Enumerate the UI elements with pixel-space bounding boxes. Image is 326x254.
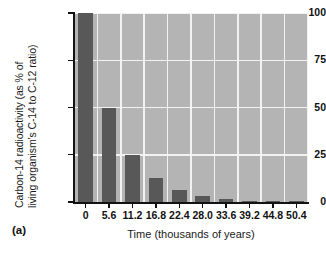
- bar: [78, 13, 93, 202]
- gridline-vertical: [260, 13, 262, 202]
- x-tick-mark: [225, 203, 226, 208]
- gridline-vertical: [97, 13, 99, 202]
- gridline-vertical: [214, 13, 216, 202]
- gridline-vertical: [237, 13, 239, 202]
- bar: [149, 178, 164, 202]
- y-axis-title-line-2: living organism's C-14 to C-12 ratio): [26, 10, 38, 208]
- x-tick-mark: [155, 203, 156, 208]
- bar: [102, 108, 117, 203]
- x-tick-mark: [179, 203, 180, 208]
- x-tick-mark: [108, 203, 109, 208]
- y-axis-line: [73, 12, 75, 203]
- figure-caption: (a): [12, 224, 26, 236]
- gridline-vertical: [284, 13, 286, 202]
- x-tick-mark: [85, 203, 86, 208]
- figure-container: Carbon-14 radioactivity (as % of living …: [0, 0, 326, 254]
- plot-area: [74, 13, 308, 202]
- x-tick-mark: [296, 203, 297, 208]
- x-axis-title: Time (thousands of years): [74, 228, 308, 240]
- gridline-vertical: [120, 13, 122, 202]
- gridline-vertical: [190, 13, 192, 202]
- bar: [172, 190, 187, 202]
- x-tick-mark: [249, 203, 250, 208]
- x-tick-mark: [202, 203, 203, 208]
- x-tick-mark: [272, 203, 273, 208]
- bar: [125, 155, 140, 202]
- gridline-vertical: [307, 13, 308, 202]
- gridline-vertical: [143, 13, 145, 202]
- y-axis-title: Carbon-14 radioactivity (as % of living …: [12, 8, 48, 208]
- gridline-vertical: [167, 13, 169, 202]
- x-tick-mark: [132, 203, 133, 208]
- x-tick-label: 50.4: [279, 209, 313, 221]
- y-axis-title-line-1: Carbon-14 radioactivity (as % of: [13, 10, 25, 208]
